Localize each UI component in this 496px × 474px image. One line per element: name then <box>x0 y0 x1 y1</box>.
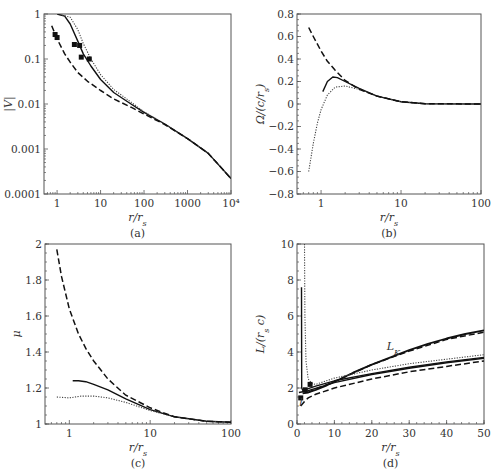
x-axis: 110100 <box>318 190 491 209</box>
plot-frame <box>297 244 484 424</box>
x-tick-label: 1 <box>54 197 61 209</box>
y-tick-label: 1.4 <box>25 346 42 358</box>
y-axis-label: μ <box>10 330 23 337</box>
y-tick-label: 0.2 <box>277 75 294 87</box>
x-axis-label: r/rs <box>381 441 399 458</box>
panel-d-angular-momentum: 010203040500246810r/rsL/(rs c)(d)LKl <box>254 238 491 471</box>
y-tick-label: −0.8 <box>269 188 295 200</box>
y-tick-label: 0.8 <box>277 8 294 20</box>
x-tick-label: 10 <box>394 197 407 209</box>
series-dotted <box>57 396 231 422</box>
series-solid <box>302 287 485 391</box>
series-group <box>57 249 231 422</box>
data-marker <box>79 55 84 60</box>
series-group <box>52 14 231 179</box>
x-tick-label: 100 <box>221 427 241 439</box>
series-solid <box>73 381 231 422</box>
y-tick-label: −0.6 <box>269 165 295 177</box>
y-axis-label: L/(rs c) <box>254 315 271 355</box>
panel-a-velocity: 110100100010⁴0.00010.0010.010.11r/rs|V|(… <box>2 8 240 241</box>
y-tick-label: 8 <box>287 274 294 286</box>
data-marker <box>72 42 77 47</box>
y-tick-label: 1.6 <box>25 310 42 322</box>
panel-c-mu: 11010011.21.41.61.82r/rsμ(c) <box>10 238 241 471</box>
annotation-l: l <box>299 396 303 409</box>
y-tick-label: 0.001 <box>11 143 41 155</box>
series-dashed <box>52 26 231 179</box>
figure-canvas: 110100100010⁴0.00010.0010.010.11r/rs|V|(… <box>0 0 496 474</box>
panel-caption: (d) <box>383 457 399 470</box>
x-axis: 110100 <box>66 420 241 439</box>
y-tick-label: 0.01 <box>18 98 41 110</box>
x-tick-label: 1 <box>318 197 325 209</box>
y-tick-label: 2 <box>35 238 42 250</box>
y-axis: 0246810 <box>281 238 301 430</box>
panel-caption: (c) <box>131 457 146 470</box>
x-axis: 01020304050 <box>294 420 491 439</box>
y-tick-label: 1.2 <box>25 382 42 394</box>
series-dotted <box>57 14 231 179</box>
x-tick-label: 10 <box>143 427 156 439</box>
series-dotted <box>309 86 481 172</box>
y-tick-label: 0.0001 <box>4 188 41 200</box>
x-tick-label: 20 <box>365 427 378 439</box>
series-group <box>299 244 484 406</box>
panel-caption: (a) <box>130 227 145 240</box>
x-axis: 110100100010⁴ <box>54 190 240 209</box>
x-tick-label: 10 <box>94 197 107 209</box>
y-tick-label: −0.4 <box>269 143 295 155</box>
y-axis-label: |V| <box>2 96 16 111</box>
y-tick-label: 1 <box>35 418 42 430</box>
y-tick-label: −0.2 <box>269 120 295 132</box>
series-solid <box>57 14 231 179</box>
panel-b-angular-velocity: 110100−0.8−0.6−0.4−0.200.20.40.60.8r/rsΩ… <box>254 8 491 241</box>
data-marker <box>77 43 82 48</box>
y-tick-label: 1 <box>34 8 41 20</box>
data-marker <box>303 387 308 392</box>
x-tick-label: 100 <box>471 197 491 209</box>
data-marker <box>87 57 92 62</box>
x-axis-label: r/rs <box>128 211 146 228</box>
annotation-lk: LK <box>386 340 401 357</box>
series-dotted <box>305 244 485 384</box>
panel-caption: (b) <box>381 227 397 240</box>
y-tick-label: 0 <box>287 98 294 110</box>
y-tick-label: 10 <box>281 238 294 250</box>
data-marker <box>55 35 60 40</box>
series-l_k-dashed <box>308 332 484 392</box>
x-tick-label: 100 <box>134 197 154 209</box>
y-tick-label: 0.6 <box>277 30 294 42</box>
x-tick-label: 10 <box>328 427 341 439</box>
y-tick-label: 6 <box>287 310 294 322</box>
x-axis-label: r/rs <box>129 441 147 458</box>
x-tick-label: 10⁴ <box>222 197 240 209</box>
series-dashed <box>309 28 481 105</box>
y-tick-label: 2 <box>287 382 294 394</box>
x-tick-label: 30 <box>403 427 416 439</box>
minor-ticks <box>44 16 229 194</box>
x-tick-label: 0 <box>294 427 301 439</box>
x-tick-label: 1000 <box>174 197 201 209</box>
series-solid-low <box>299 358 484 392</box>
plot-frame <box>44 14 231 194</box>
y-axis: −0.8−0.6−0.4−0.200.20.40.60.8 <box>269 8 302 200</box>
y-tick-label: 0.4 <box>277 53 294 65</box>
y-tick-label: 1.8 <box>25 274 42 286</box>
y-tick-label: 0.1 <box>24 53 41 65</box>
y-tick-label: 4 <box>287 346 294 358</box>
y-tick-label: 0 <box>287 418 294 430</box>
minor-ticks <box>297 244 484 424</box>
x-tick-label: 1 <box>66 427 73 439</box>
x-axis-label: r/rs <box>380 211 398 228</box>
data-marker <box>308 382 313 387</box>
x-tick-label: 40 <box>440 427 453 439</box>
x-tick-label: 50 <box>477 427 490 439</box>
series-group <box>309 28 481 172</box>
